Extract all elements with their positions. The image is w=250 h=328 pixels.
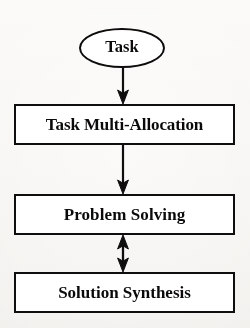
edge-solving-to-synthesis xyxy=(118,235,129,272)
node-task-multi-allocation: Task Multi-Allocation xyxy=(14,104,235,145)
flowchart-diagram: Task Task Multi-Allocation Problem Solvi… xyxy=(0,0,250,328)
edge-allocation-to-solving xyxy=(118,145,129,194)
node-problem-solving-label: Problem Solving xyxy=(64,206,186,223)
edge-task-to-allocation xyxy=(118,68,129,104)
node-solution-synthesis: Solution Synthesis xyxy=(14,272,235,313)
node-task-label: Task xyxy=(105,39,139,56)
node-solution-synthesis-label: Solution Synthesis xyxy=(58,284,191,301)
diagram-ink-layer: Task Task Multi-Allocation Problem Solvi… xyxy=(0,0,250,328)
node-task-multi-allocation-label: Task Multi-Allocation xyxy=(46,116,203,133)
node-problem-solving: Problem Solving xyxy=(14,194,235,235)
node-task: Task xyxy=(79,28,165,68)
